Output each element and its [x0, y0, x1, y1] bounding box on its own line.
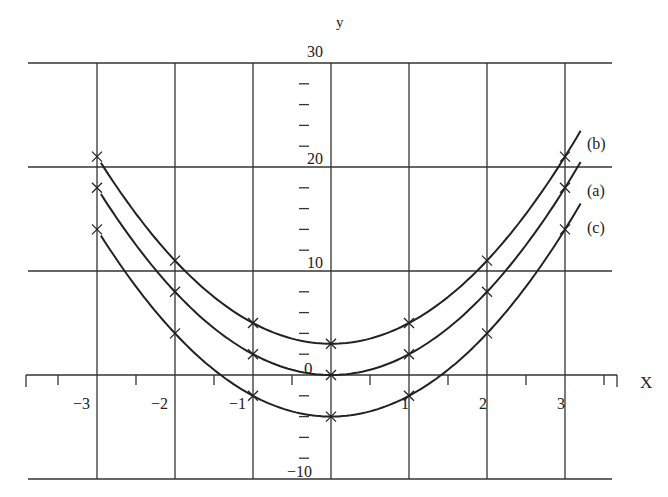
y-tick-label: 10 — [307, 254, 323, 271]
parabola-chart: −3−2−1123−10102030 y X 0 (b) (a) (c) — [0, 0, 668, 497]
curve-label-c: (c) — [587, 219, 605, 237]
y-tick-label: 20 — [307, 150, 323, 167]
y-tick-label: −10 — [287, 463, 312, 480]
x-axis-label: X — [640, 373, 652, 392]
curve-b — [101, 131, 581, 344]
x-tick-label: −3 — [73, 395, 90, 412]
y-axis-label: y — [336, 14, 344, 30]
y-tick-label: 30 — [307, 43, 323, 60]
x-tick-label: −1 — [229, 395, 246, 412]
x-tick-label: 2 — [479, 395, 487, 412]
curve-label-b: (b) — [587, 135, 606, 153]
origin-label: 0 — [304, 359, 313, 378]
curves — [101, 131, 581, 417]
x-tick-label: 3 — [557, 395, 565, 412]
curve-label-a: (a) — [587, 182, 605, 200]
tick-labels: −3−2−1123−10102030 — [73, 43, 565, 480]
x-tick-label: −2 — [151, 395, 168, 412]
